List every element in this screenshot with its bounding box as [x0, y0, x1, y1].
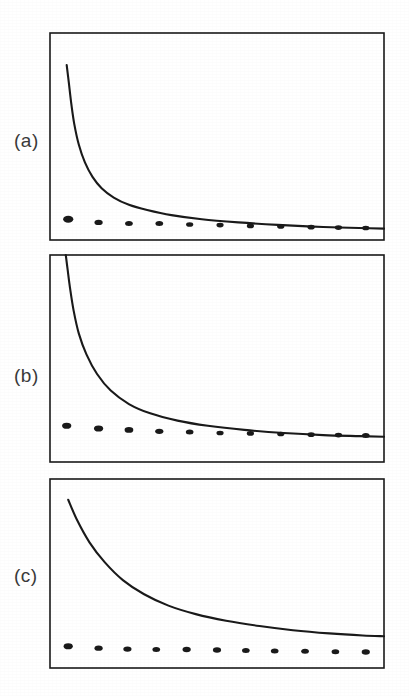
- data-point: [213, 647, 221, 652]
- data-point: [308, 432, 315, 437]
- panel-a-plot: [48, 31, 386, 242]
- data-point: [332, 649, 340, 654]
- panel-b-plot: [48, 253, 386, 464]
- data-point: [186, 222, 193, 227]
- data-point-markers: [64, 643, 370, 654]
- data-point: [94, 220, 102, 225]
- data-point-markers: [63, 216, 369, 230]
- panel-label-b: (b): [14, 366, 39, 385]
- data-point: [277, 224, 284, 229]
- decay-curve: [66, 255, 384, 437]
- data-point: [63, 216, 73, 223]
- data-point: [123, 646, 131, 651]
- panel-label-a: (a): [14, 131, 39, 150]
- data-point: [152, 647, 160, 652]
- data-point: [186, 429, 194, 434]
- data-point: [247, 431, 254, 436]
- data-point: [64, 643, 73, 649]
- data-point: [216, 431, 223, 436]
- data-point: [242, 648, 250, 653]
- data-point: [277, 432, 284, 437]
- data-point: [335, 433, 342, 438]
- data-point: [335, 225, 342, 230]
- data-point: [94, 425, 103, 431]
- data-point: [247, 224, 254, 229]
- data-point: [62, 423, 71, 429]
- figure-root: (a) (b) (c): [0, 0, 409, 696]
- data-point: [216, 223, 223, 228]
- decay-curve: [67, 65, 384, 229]
- data-point: [155, 429, 163, 434]
- data-point: [155, 221, 163, 226]
- data-point: [301, 649, 309, 654]
- data-point: [125, 221, 133, 226]
- panel-frame: [50, 33, 384, 240]
- panel-label-c: (c): [14, 566, 38, 585]
- data-point: [362, 649, 370, 654]
- panel-c-plot: [48, 477, 386, 670]
- data-point: [362, 226, 369, 231]
- panel-frame: [50, 479, 384, 668]
- data-point: [308, 225, 315, 230]
- data-point: [125, 427, 134, 433]
- data-point: [362, 433, 370, 438]
- data-point: [271, 648, 279, 653]
- data-point: [183, 647, 191, 652]
- data-point: [94, 645, 102, 650]
- decay-curve: [68, 500, 384, 636]
